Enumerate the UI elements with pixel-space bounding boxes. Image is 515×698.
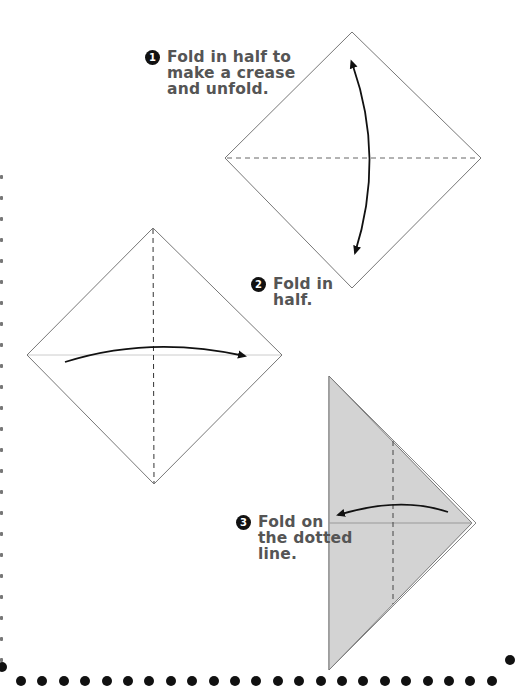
border-dot [444,676,454,686]
border-dot [380,676,390,686]
border-edge-dot [0,175,3,179]
border-edge-dot [0,658,3,662]
border-edge-dot [0,637,3,641]
step2-paper-diamond [27,228,282,484]
border-edge-dot [0,301,3,305]
border-edge-dot [0,406,3,410]
border-dot [166,676,176,686]
border-dot [487,676,497,686]
border-edge-dot [0,532,3,536]
border-dot [59,676,69,686]
border-dot [273,676,283,686]
border-dot [423,676,433,686]
step-text: Fold on the dotted line. [258,514,353,562]
border-edge-dot [0,574,3,578]
step-3-instruction: 3 Fold on the dotted line. [236,514,353,562]
border-edge-dot [0,448,3,452]
border-dot [123,676,133,686]
border-edge-dot [0,469,3,473]
border-edge-dot [0,595,3,599]
border-edge-dot [0,322,3,326]
border-edge-dot [0,427,3,431]
border-dot [337,676,347,686]
border-dot [316,676,326,686]
border-edge-dot [0,238,3,242]
step-number-badge: 2 [251,277,266,292]
border-edge-dot [0,553,3,557]
step-1-instruction: 1 Fold in half to make a crease and unfo… [145,49,295,97]
border-edge-dot [0,511,3,515]
step-text: Fold in half. [273,276,333,308]
border-edge-dot [0,616,3,620]
border-dot [16,676,26,686]
border-edge-dot [0,196,3,200]
border-dot [102,676,112,686]
border-dot [209,676,219,686]
border-edge-dot [0,259,3,263]
step-number-badge: 1 [145,50,160,65]
border-edge-dot [0,217,3,221]
step-2-instruction: 2 Fold in half. [251,276,333,308]
border-corner-dot [505,655,515,665]
border-edge-dot [0,343,3,347]
border-edge-dot [0,280,3,284]
step-number-badge: 3 [236,515,251,530]
border-edge-dot [0,385,3,389]
step-text: Fold in half to make a crease and unfold… [167,49,295,97]
border-edge-dot [0,490,3,494]
border-edge-dot [0,364,3,368]
border-dot [230,676,240,686]
